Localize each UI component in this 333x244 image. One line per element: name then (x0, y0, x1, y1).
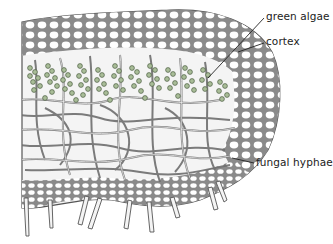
label-fungal-hyphae: fungal hyphae (256, 156, 333, 168)
thallus (20, 9, 290, 212)
label-green-algae: green algae (266, 10, 330, 22)
label-cortex: cortex (266, 35, 300, 47)
